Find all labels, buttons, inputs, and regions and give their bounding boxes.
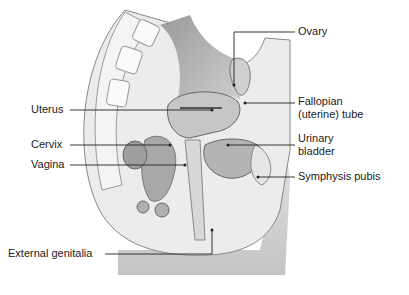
label-external-genitalia: External genitalia bbox=[8, 247, 92, 260]
label-fallopian-1: Fallopian bbox=[298, 95, 343, 108]
pelvis-diagram: Ovary Fallopian (uterine) tube Urinary b… bbox=[0, 0, 409, 295]
label-urinary-2: bladder bbox=[298, 145, 335, 158]
label-urinary-1: Urinary bbox=[298, 132, 333, 145]
label-cervix: Cervix bbox=[31, 138, 62, 151]
label-ovary: Ovary bbox=[298, 25, 327, 38]
label-fallopian-2: (uterine) tube bbox=[298, 108, 363, 121]
label-vagina: Vagina bbox=[31, 158, 64, 171]
label-symphysis: Symphysis pubis bbox=[298, 170, 381, 183]
label-uterus: Uterus bbox=[31, 103, 63, 116]
